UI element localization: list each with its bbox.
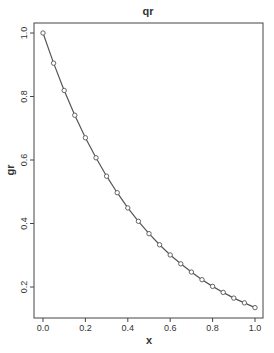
data-point (73, 113, 77, 117)
data-point (189, 270, 193, 274)
y-tick-label: 0.6 (19, 154, 29, 167)
data-point (253, 305, 257, 309)
y-axis: 0.20.40.60.81.0 (19, 27, 34, 294)
data-point (210, 284, 214, 288)
x-tick-label: 0.8 (206, 323, 219, 333)
data-point (232, 296, 236, 300)
x-axis-label: x (146, 334, 153, 346)
data-series (41, 31, 257, 310)
data-point (221, 290, 225, 294)
data-point (115, 191, 119, 195)
data-point (94, 156, 98, 160)
data-point (147, 231, 151, 235)
chart-title: qr (143, 5, 155, 17)
x-tick-label: 0.4 (122, 323, 135, 333)
y-tick-label: 0.4 (19, 217, 29, 230)
x-tick-label: 0.6 (164, 323, 177, 333)
data-point (126, 206, 130, 210)
data-point (41, 31, 45, 35)
x-tick-label: 1.0 (249, 323, 262, 333)
data-point (168, 253, 172, 257)
data-point (242, 301, 246, 305)
data-point (200, 277, 204, 281)
data-point (83, 136, 87, 140)
line-chart: qr 0.20.40.60.81.0 0.00.20.40.60.81.0 x … (0, 0, 274, 353)
data-point (51, 61, 55, 65)
y-axis-label: gr (4, 164, 16, 176)
data-point (62, 88, 66, 92)
x-axis: 0.00.20.40.60.81.0 (37, 318, 262, 333)
plot-frame (34, 23, 263, 318)
y-tick-label: 1.0 (19, 27, 29, 40)
y-tick-label: 0.2 (19, 281, 29, 294)
x-tick-label: 0.0 (37, 323, 50, 333)
data-point (157, 243, 161, 247)
data-point (179, 262, 183, 266)
series-line (43, 33, 255, 308)
y-tick-label: 0.8 (19, 90, 29, 103)
data-point (136, 219, 140, 223)
x-tick-label: 0.2 (79, 323, 92, 333)
data-point (104, 174, 108, 178)
